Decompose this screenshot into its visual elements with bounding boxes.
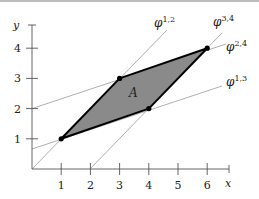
vertex-3-3 — [117, 76, 122, 81]
x-tick-3: 3 — [116, 179, 123, 192]
y-tick-4: 4 — [14, 42, 21, 55]
vertex-1-1 — [59, 136, 64, 141]
y-axis-label: y — [12, 19, 20, 32]
x-tick-6: 6 — [204, 179, 211, 192]
vertex-4-2 — [146, 106, 151, 111]
label-phi-3-4: φ3,4 — [213, 14, 234, 29]
label-phi-1-2: φ1,2 — [154, 15, 175, 30]
vertex-6-4 — [205, 46, 210, 51]
label-phi-2-4: φ2,4 — [226, 39, 247, 54]
x-tick-5: 5 — [175, 179, 182, 192]
y-tick-1: 1 — [14, 133, 21, 146]
x-tick-4: 4 — [145, 179, 152, 192]
region-label: A — [128, 86, 138, 100]
y-tick-2: 2 — [14, 103, 21, 116]
diagram-canvas: 1 2 3 4 5 6 1 2 3 4 x y A φ1,2 φ3,4 φ2,4… — [0, 0, 259, 199]
x-tick-2: 2 — [87, 179, 94, 192]
y-tick-3: 3 — [14, 72, 21, 85]
x-tick-1: 1 — [58, 179, 65, 192]
x-axis-label: x — [225, 177, 232, 190]
label-phi-1-3: φ1,3 — [226, 74, 247, 89]
